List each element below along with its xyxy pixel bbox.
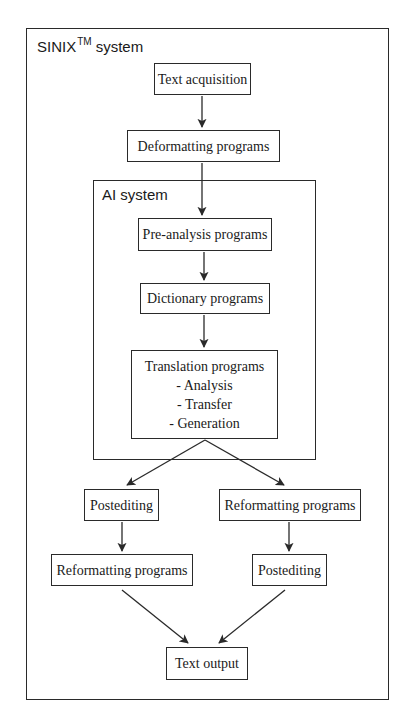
sinix-label-suffix: system bbox=[96, 38, 144, 55]
ai-system-label: AI system bbox=[102, 186, 168, 203]
translation-item-generation: - Generation bbox=[169, 414, 239, 433]
node-text-output-label: Text output bbox=[175, 654, 239, 673]
node-pre-analysis-label: Pre-analysis programs bbox=[143, 225, 268, 244]
node-reformatting-programs-left: Reformatting programs bbox=[51, 554, 193, 586]
node-postediting-right: Postediting bbox=[252, 554, 327, 586]
node-postediting-left-label: Postediting bbox=[90, 496, 153, 515]
node-deformatting-label: Deformatting programs bbox=[138, 137, 270, 156]
node-deformatting-programs: Deformatting programs bbox=[127, 130, 280, 162]
node-text-output: Text output bbox=[166, 647, 248, 680]
node-reformatting-right-label: Reformatting programs bbox=[224, 496, 355, 515]
node-dictionary-label: Dictionary programs bbox=[147, 289, 263, 308]
sinix-label-text: SINIX bbox=[37, 38, 76, 55]
sinix-system-label: SINIXTMsystem bbox=[37, 37, 143, 55]
translation-item-analysis: - Analysis bbox=[176, 376, 232, 395]
node-translation-title: Translation programs bbox=[145, 357, 265, 376]
node-text-acquisition-label: Text acquisition bbox=[158, 70, 248, 89]
node-postediting-right-label: Postediting bbox=[258, 561, 321, 580]
node-postediting-left: Postediting bbox=[84, 489, 159, 521]
trademark-mark: TM bbox=[77, 36, 91, 47]
node-reformatting-left-label: Reformatting programs bbox=[56, 561, 187, 580]
node-text-acquisition: Text acquisition bbox=[154, 63, 251, 95]
node-pre-analysis-programs: Pre-analysis programs bbox=[138, 218, 272, 251]
translation-item-transfer: - Transfer bbox=[177, 395, 232, 414]
node-dictionary-programs: Dictionary programs bbox=[140, 283, 270, 314]
node-translation-programs: Translation programs - Analysis - Transf… bbox=[131, 350, 278, 439]
node-reformatting-programs-right: Reformatting programs bbox=[219, 489, 361, 521]
